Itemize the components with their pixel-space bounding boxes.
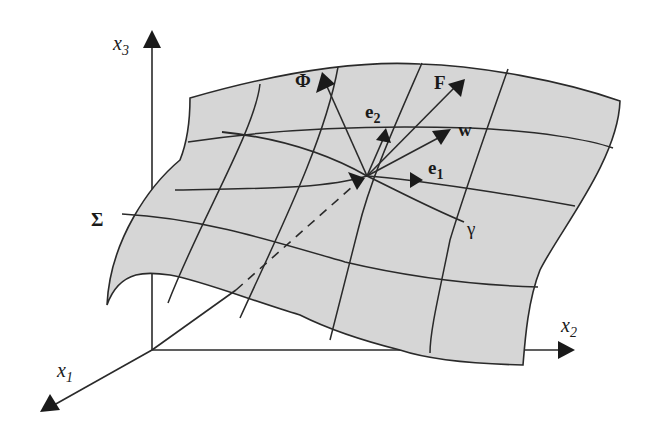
position-solid-segment (152, 290, 236, 350)
surface-sigma (107, 63, 620, 365)
surface-vector-diagram: x3 x2 x1 Σ γ Φ F e2 w e1 (0, 0, 650, 441)
phi-label: Φ (295, 70, 311, 91)
x1-label: x1 (56, 359, 73, 385)
x2-arrowhead-icon (558, 341, 575, 359)
x3-arrowhead-icon (143, 30, 161, 48)
w-label: w (458, 119, 472, 140)
x2-label: x2 (560, 314, 577, 340)
gamma-label: γ (466, 218, 475, 239)
sigma-label: Σ (91, 209, 103, 230)
x3-label: x3 (112, 32, 129, 58)
F-label: F (434, 72, 446, 93)
